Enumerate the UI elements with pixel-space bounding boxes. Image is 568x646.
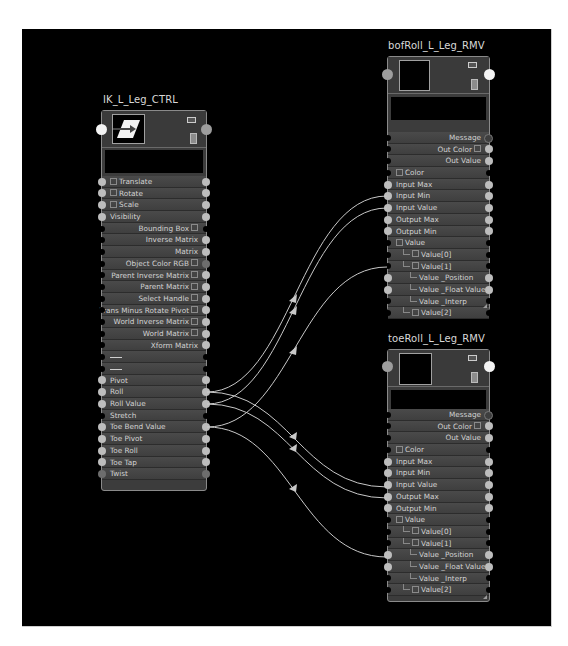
node-swatch-button[interactable] — [471, 372, 478, 383]
attribute-row[interactable]: Value _Float Value — [388, 561, 489, 573]
expand-toggle-icon[interactable] — [110, 201, 117, 208]
attribute-row[interactable]: Trans Minus Rotate Pivot — [102, 305, 206, 317]
input-port[interactable] — [384, 469, 392, 477]
attribute-row[interactable]: Output Min — [388, 503, 489, 515]
input-port[interactable] — [98, 201, 106, 209]
output-port[interactable] — [202, 178, 210, 186]
node-output-port[interactable] — [201, 124, 212, 135]
input-port[interactable] — [384, 227, 392, 235]
attribute-row[interactable]: Out Color — [388, 144, 489, 156]
node-swatch-button[interactable] — [471, 79, 478, 90]
attribute-row[interactable]: Rotate — [102, 188, 206, 200]
input-port[interactable] — [98, 376, 106, 384]
compound-expand-icon[interactable] — [191, 271, 198, 278]
output-port[interactable] — [485, 458, 493, 466]
input-port[interactable] — [98, 400, 106, 408]
node-name-field[interactable] — [391, 97, 486, 120]
input-port[interactable] — [384, 493, 392, 501]
input-port[interactable] — [98, 447, 106, 455]
output-port[interactable] — [202, 283, 210, 291]
output-port[interactable] — [202, 318, 210, 326]
node-input-port[interactable] — [382, 361, 393, 372]
attribute-row[interactable]: Value[2] — [388, 584, 489, 596]
attribute-row[interactable]: Value _Position — [388, 272, 489, 284]
output-port[interactable] — [484, 411, 493, 420]
attribute-row[interactable]: Output Max — [388, 491, 489, 503]
output-port[interactable] — [485, 493, 493, 501]
attribute-row[interactable]: Object Color RGB — [102, 258, 206, 270]
attribute-row[interactable]: Input Max — [388, 456, 489, 468]
expand-toggle-icon[interactable] — [412, 586, 419, 593]
expand-toggle-icon[interactable] — [396, 239, 403, 246]
attribute-row[interactable]: Toe Pivot — [102, 433, 206, 445]
input-port[interactable] — [384, 481, 392, 489]
compound-expand-icon[interactable] — [191, 224, 198, 231]
attribute-row[interactable]: Input Min — [388, 190, 489, 202]
input-port[interactable] — [384, 181, 392, 189]
attribute-row[interactable]: Value _Interp — [388, 296, 489, 308]
attribute-row[interactable]: Visibility — [102, 211, 206, 223]
attribute-row[interactable]: Output Min — [388, 226, 489, 238]
output-port[interactable] — [202, 470, 210, 478]
node-output-port[interactable] — [484, 69, 495, 80]
attribute-row[interactable]: Value — [388, 514, 489, 526]
attribute-row[interactable]: Value[0] — [388, 249, 489, 261]
attribute-row[interactable]: Value[1] — [388, 261, 489, 273]
node-ik-l-leg-ctrl[interactable]: TranslateRotateScaleVisibilityBounding B… — [101, 110, 207, 491]
output-port[interactable] — [485, 563, 493, 571]
expand-toggle-icon[interactable] — [396, 446, 403, 453]
attribute-row[interactable]: Roll — [102, 386, 206, 398]
output-port[interactable] — [485, 204, 493, 212]
input-port[interactable] — [98, 189, 106, 197]
attribute-row[interactable]: Xform Matrix — [102, 340, 206, 352]
attribute-row[interactable]: Color — [388, 167, 489, 179]
expand-toggle-icon[interactable] — [396, 516, 403, 523]
attribute-row[interactable]: Translate — [102, 176, 206, 188]
attribute-row[interactable]: Input Value — [388, 479, 489, 491]
input-port[interactable] — [98, 213, 106, 221]
attribute-row[interactable]: Input Min — [388, 467, 489, 479]
attribute-row[interactable]: Value _Interp — [388, 573, 489, 585]
expand-toggle-icon[interactable] — [396, 169, 403, 176]
input-port[interactable] — [384, 274, 392, 282]
input-port[interactable] — [98, 388, 106, 396]
compound-expand-icon[interactable] — [474, 422, 481, 429]
attribute-row[interactable]: Parent Inverse Matrix — [102, 270, 206, 282]
attribute-row[interactable]: Out Color — [388, 421, 489, 433]
node-swatch-button[interactable] — [190, 133, 197, 144]
node-toeroll-l-leg-rmv[interactable]: MessageOut ColorOut ValueColorInput MaxI… — [387, 349, 490, 602]
attribute-row[interactable]: Pivot — [102, 375, 206, 387]
attribute-row[interactable]: World Matrix — [102, 328, 206, 340]
resize-handle[interactable] — [483, 595, 487, 599]
attribute-row[interactable]: Toe Roll — [102, 445, 206, 457]
compound-expand-icon[interactable] — [191, 318, 198, 325]
expand-toggle-icon[interactable] — [412, 539, 419, 546]
attribute-row[interactable]: Value[2] — [388, 307, 489, 319]
input-port[interactable] — [384, 563, 392, 571]
input-port[interactable] — [98, 178, 106, 186]
collapse-toggle-button[interactable] — [187, 117, 196, 123]
input-port[interactable] — [98, 458, 106, 466]
attribute-row[interactable]: Message — [388, 132, 489, 144]
attribute-row[interactable]: Scale — [102, 199, 206, 211]
attribute-row[interactable] — [102, 363, 206, 375]
expand-toggle-icon[interactable] — [110, 189, 117, 196]
input-port[interactable] — [384, 551, 392, 559]
output-port[interactable] — [484, 134, 493, 143]
node-name-field[interactable] — [105, 150, 203, 173]
compound-expand-icon[interactable] — [191, 329, 198, 336]
output-port[interactable] — [485, 481, 493, 489]
output-port[interactable] — [202, 213, 210, 221]
compound-expand-icon[interactable] — [191, 306, 198, 313]
input-port[interactable] — [384, 504, 392, 512]
input-port[interactable] — [98, 423, 106, 431]
input-port[interactable] — [98, 435, 106, 443]
attribute-row[interactable]: Roll Value — [102, 398, 206, 410]
expand-toggle-icon[interactable] — [412, 262, 419, 269]
output-port[interactable] — [202, 435, 210, 443]
node-input-port[interactable] — [382, 69, 393, 80]
resize-handle[interactable] — [483, 304, 487, 308]
attribute-row[interactable]: Bounding Box — [102, 223, 206, 235]
compound-expand-icon[interactable] — [191, 294, 198, 301]
expand-toggle-icon[interactable] — [110, 178, 117, 185]
